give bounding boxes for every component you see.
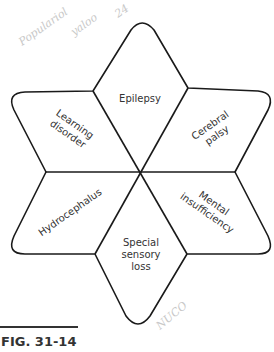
hexagram-diagram: Populariol yaloo 24 NUCO Epilepsy Cerebr…: [0, 0, 274, 352]
svg-text:loss: loss: [131, 261, 150, 272]
label-epilepsy: Epilepsy: [119, 93, 161, 104]
label-special-sensory-loss: Special sensory loss: [121, 237, 160, 272]
label-hydrocephalus: Hydrocephalus: [36, 186, 103, 238]
label-learning-disorder: Learning disorder: [47, 107, 96, 151]
caption-rule: [0, 326, 78, 328]
svg-text:Hydrocephalus: Hydrocephalus: [36, 186, 103, 238]
figure-caption: FIG. 31-14: [1, 334, 76, 349]
divider-diagonal-2: [95, 88, 188, 254]
handwriting-note-2: yaloo: [67, 11, 100, 39]
svg-text:Special: Special: [123, 237, 159, 248]
label-cerebral-palsy: Cerebral palsy: [189, 108, 237, 151]
handwriting-note-3: 24: [111, 2, 131, 21]
handwriting-note-1: Populariol: [15, 5, 70, 49]
label-mental-insufficiency: Mental insufficiency: [178, 181, 242, 236]
handwriting-note-4: NUCO: [153, 299, 190, 333]
svg-text:sensory: sensory: [121, 249, 160, 260]
